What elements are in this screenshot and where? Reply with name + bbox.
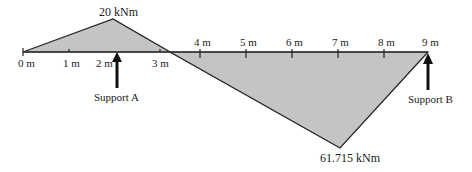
- tick-label-4m: 4 m: [194, 36, 211, 48]
- tick-label-8m: 8 m: [378, 36, 395, 48]
- tick-label-2m: 2 m: [96, 57, 113, 69]
- support-a-arrow-icon: [112, 52, 122, 88]
- tick-label-7m: 7 m: [332, 36, 349, 48]
- support-a-label: Support A: [94, 91, 139, 103]
- negative-moment-region: [170, 52, 428, 148]
- support-b-arrow-icon: [423, 53, 433, 90]
- tick-label-6m: 6 m: [286, 36, 303, 48]
- negative-peak-label: 61.715 kNm: [320, 151, 381, 165]
- support-b-label: Support B: [408, 93, 453, 105]
- positive-moment-region: [23, 19, 170, 52]
- tick-label-3m: 3 m: [152, 57, 169, 69]
- tick-label-1m: 1 m: [63, 57, 80, 69]
- bending-moment-diagram: 0 m 1 m 2 m 3 m 4 m 5 m 6 m 7 m 8 m 9 m …: [0, 0, 472, 172]
- tick-label-9m: 9 m: [422, 36, 439, 48]
- positive-peak-label: 20 kNm: [99, 5, 139, 19]
- tick-label-5m: 5 m: [240, 36, 257, 48]
- tick-label-0m: 0 m: [18, 57, 35, 69]
